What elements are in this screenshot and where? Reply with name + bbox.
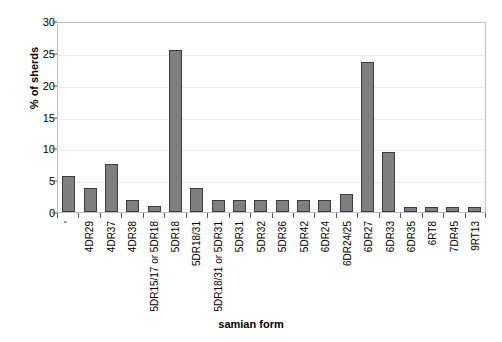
x-label-slot: 5DR15/17 or 5DR18 <box>143 219 164 319</box>
x-label-slot: 5DR32 <box>250 219 271 319</box>
x-tick-mark <box>272 213 273 218</box>
x-tick-mark <box>164 213 165 218</box>
x-tick-label: 6DR27 <box>363 221 374 252</box>
x-tick-label: 5DR42 <box>298 221 309 252</box>
bar-series <box>58 23 485 212</box>
x-tick-label: 5DR18/31 <box>191 221 202 266</box>
bar-slot <box>400 23 421 212</box>
bar <box>62 176 75 212</box>
x-label-slot: 6DR33 <box>379 219 400 319</box>
x-tick-label: 5DR31 <box>234 221 245 252</box>
x-label-slot: 5DR36 <box>272 219 293 319</box>
x-label-slot: 6DR24 <box>314 219 335 319</box>
y-tick-label: 10 <box>0 143 55 155</box>
bar-slot <box>165 23 186 212</box>
x-tick-mark <box>357 213 358 218</box>
x-label-slot: 6DR35 <box>400 219 421 319</box>
x-tick-label: 5DR36 <box>277 221 288 252</box>
bar-slot <box>314 23 335 212</box>
x-tick-label: 5DR18 <box>169 221 180 252</box>
y-tick-label: 20 <box>0 80 55 92</box>
x-tick-mark <box>422 213 423 218</box>
bar <box>361 62 374 212</box>
bar <box>169 50 182 212</box>
x-tick-mark <box>121 213 122 218</box>
bar <box>404 207 417 212</box>
x-label-slot: 6DR24/25 <box>336 219 357 319</box>
bar <box>233 200 246 212</box>
bar-chart: % of sherds 051015202530 '4DR294DR374DR3… <box>0 0 502 342</box>
bar <box>190 188 203 212</box>
x-tick-mark <box>186 213 187 218</box>
bar-slot <box>186 23 207 212</box>
bar <box>276 200 289 212</box>
bar-slot <box>335 23 356 212</box>
x-tick-mark <box>143 213 144 218</box>
x-tick-label: ' <box>62 221 73 223</box>
bar <box>212 200 225 212</box>
x-tick-mark <box>465 213 466 218</box>
x-axis-labels: '4DR294DR374DR385DR15/17 or 5DR185DR185D… <box>57 219 486 319</box>
x-label-slot: 4DR29 <box>78 219 99 319</box>
bar-slot <box>357 23 378 212</box>
bar-slot <box>207 23 228 212</box>
x-tick-mark <box>379 213 380 218</box>
bar-slot <box>421 23 442 212</box>
bar-slot <box>122 23 143 212</box>
x-tick-mark <box>57 213 58 218</box>
y-tick-label: 5 <box>0 175 55 187</box>
x-tick-label: 6RT8 <box>427 221 438 245</box>
x-tick-mark <box>314 213 315 218</box>
x-tick-mark <box>229 213 230 218</box>
bar <box>126 200 139 212</box>
bar-slot <box>79 23 100 212</box>
x-label-slot: ' <box>57 219 78 319</box>
x-label-slot: 6DR27 <box>357 219 378 319</box>
x-label-slot: 5DR18 <box>164 219 185 319</box>
x-label-slot: 7DR45 <box>443 219 464 319</box>
bar-slot <box>58 23 79 212</box>
x-tick-mark <box>207 213 208 218</box>
x-tick-label: 9RT13 <box>470 221 481 251</box>
x-tick-mark <box>443 213 444 218</box>
bar <box>84 188 97 212</box>
x-tick-label: 4DR29 <box>84 221 95 252</box>
y-tick-label: 30 <box>0 16 55 28</box>
bar-slot <box>442 23 463 212</box>
bar-slot <box>101 23 122 212</box>
x-label-slot: 5DR18/31 <box>186 219 207 319</box>
x-tick-mark <box>100 213 101 218</box>
bar <box>105 164 118 212</box>
x-tick-label: 6DR33 <box>384 221 395 252</box>
x-label-slot: 9RT13 <box>465 219 486 319</box>
x-tick-label: 5DR15/17 or 5DR18 <box>148 221 159 312</box>
bar-slot <box>250 23 271 212</box>
x-tick-label: 5DR32 <box>255 221 266 252</box>
bar <box>297 200 310 212</box>
bar-slot <box>378 23 399 212</box>
y-tick-label: 15 <box>0 112 55 124</box>
bar-slot <box>271 23 292 212</box>
x-tick-label: 4DR37 <box>105 221 116 252</box>
x-tick-label: 5DR18/31 or 5DR31 <box>212 221 223 312</box>
bar <box>425 207 438 212</box>
x-tick-label: 6DR24/25 <box>341 221 352 266</box>
bar <box>468 207 481 212</box>
bar-slot <box>143 23 164 212</box>
bar-slot <box>229 23 250 212</box>
x-label-slot: 5DR18/31 or 5DR31 <box>207 219 228 319</box>
x-axis-title: samian form <box>0 318 502 330</box>
x-tick-label: 7DR45 <box>448 221 459 252</box>
x-tick-mark <box>336 213 337 218</box>
x-tick-mark <box>485 213 486 218</box>
x-tick-mark <box>250 213 251 218</box>
x-label-slot: 6RT8 <box>422 219 443 319</box>
x-tick-mark <box>293 213 294 218</box>
y-tick-label: 25 <box>0 48 55 60</box>
x-label-slot: 4DR37 <box>100 219 121 319</box>
bar <box>382 152 395 212</box>
x-tick-mark <box>400 213 401 218</box>
x-label-slot: 5DR31 <box>229 219 250 319</box>
x-tick-label: 4DR38 <box>127 221 138 252</box>
bar <box>148 206 161 212</box>
